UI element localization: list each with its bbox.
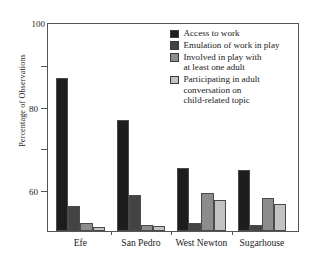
y-tick-60: 60 [41, 108, 48, 109]
legend-swatch-icon [170, 53, 179, 62]
legend-item: Emulation of work in play [170, 40, 296, 50]
legend-item: Involved in play withat least one adult [170, 52, 296, 73]
y-tick-20: 20 [41, 191, 48, 192]
legend-label: Participating in adultconversation onchi… [184, 74, 260, 105]
legend-swatch-icon [170, 41, 179, 50]
bar [141, 225, 153, 231]
legend-label: Involved in play withat least one adult [184, 52, 262, 73]
y-tick-label-60: 60 [29, 187, 38, 197]
legend-item: Access to work [170, 28, 296, 38]
y-tick-40: 40 [41, 149, 48, 150]
plot-area: 020406080100 EfeSan PedroWest NewtonSuga… [47, 23, 299, 232]
x-tick-label-sugarhouse: Sugarhouse [240, 237, 285, 248]
y-tick-label-100: 100 [32, 19, 46, 29]
bar [250, 225, 262, 231]
legend-swatch-icon [170, 76, 179, 85]
x-tick-label-west-newton: West Newton [176, 237, 228, 248]
bar [201, 193, 213, 231]
legend-label: Access to work [184, 28, 240, 38]
bar [117, 120, 129, 231]
x-tick-separator [232, 231, 233, 235]
bar [93, 227, 105, 231]
legend-label-line2: at least one adult [184, 62, 262, 72]
y-axis-title: Percentage of Observations [18, 21, 27, 181]
y-tick-label-80: 80 [29, 104, 38, 114]
x-tick-label-san-pedro: San Pedro [121, 237, 160, 248]
x-tick-separator [171, 231, 172, 235]
legend-swatch-icon [170, 30, 179, 39]
x-tick-label-efe: Efe [74, 237, 87, 248]
bar [238, 170, 250, 231]
bar [189, 223, 201, 231]
bar [80, 223, 92, 231]
y-tick-80: 80 [41, 66, 48, 67]
bar [153, 226, 165, 231]
legend-label-line2: conversation on [184, 85, 260, 95]
bar [214, 200, 226, 231]
x-tick-separator [111, 231, 112, 235]
bar [274, 204, 286, 231]
bar [177, 168, 189, 231]
bar [68, 206, 80, 231]
chart-legend: Access to workEmulation of work in playI… [170, 28, 296, 107]
bar-chart-figure: Percentage of Observations 020406080100 … [0, 0, 312, 262]
bar [262, 198, 274, 231]
bar [129, 195, 141, 231]
bar [56, 78, 68, 231]
legend-label-line3: child-related topic [184, 95, 260, 105]
legend-label: Emulation of work in play [184, 40, 280, 50]
legend-item: Participating in adultconversation onchi… [170, 74, 296, 105]
